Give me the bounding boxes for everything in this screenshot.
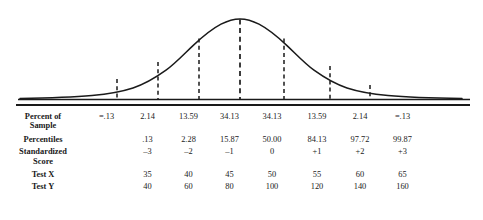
distribution-curve-svg [0, 0, 483, 106]
stats-table: Percent of Sample =.13 2.14 13.59 34.13 … [0, 108, 483, 192]
cell-percentile-pad-right [425, 135, 483, 144]
value-text: 50.00 [263, 135, 282, 144]
row-label-percentiles: Percentiles [0, 135, 86, 144]
table-row-percent-of-sample: Percent of Sample =.13 2.14 13.59 34.13 … [0, 112, 483, 131]
cell-zscore-plus3: +3 [380, 147, 425, 166]
value-text: 100 [266, 182, 279, 191]
cell-percent-band-7: 2.14 [340, 112, 380, 131]
table-row-standardized-score: Standardized Score –3 –2 –1 0 +1 +2 +3 [0, 147, 483, 166]
cell-percent-band-8: =.13 [380, 112, 425, 131]
cell-zscore-minus2: –2 [168, 147, 209, 166]
value-text: 60 [356, 170, 364, 179]
cell-percentile-minus3: .13 [127, 135, 168, 144]
row-label-test-y: Test Y [0, 182, 86, 191]
cell-testy-minus3: 40 [127, 182, 168, 191]
value-text: 0 [270, 147, 274, 156]
value-text: –1 [225, 147, 233, 156]
cell-testy-plus3: 160 [380, 182, 425, 191]
cell-percentile-minus1: 15.87 [209, 135, 250, 144]
row-label-standardized-score: Standardized Score [0, 147, 86, 166]
cell-percent-band-4: 34.13 [209, 112, 250, 131]
cell-testx-plus1: 55 [294, 170, 340, 179]
value-text: –2 [184, 147, 192, 156]
cell-testx-plus2: 60 [340, 170, 380, 179]
table-row-test-y: Test Y 40 60 80 100 120 140 160 [0, 182, 483, 191]
normal-curve-path [20, 19, 462, 99]
value-text: 120 [311, 182, 324, 191]
value-text: 55 [313, 170, 321, 179]
cell-percent-band-3: 13.59 [168, 112, 209, 131]
cell-zscore-zero: 0 [250, 147, 294, 166]
cell-testx-minus1: 45 [209, 170, 250, 179]
cell-testx-minus2: 40 [168, 170, 209, 179]
value-text: 2.28 [181, 135, 196, 144]
cell-zscore-plus1: +1 [294, 147, 340, 166]
cell-zscore-pad-right [425, 147, 483, 166]
table-row-percentiles: Percentiles .13 2.28 15.87 50.00 84.13 9… [0, 135, 483, 144]
value-text: 60 [184, 182, 192, 191]
cell-percentile-plus2: 97.72 [340, 135, 380, 144]
cell-percentile-plus1: 84.13 [294, 135, 340, 144]
value-text: 50 [268, 170, 276, 179]
cell-zscore-pad-left [86, 147, 127, 166]
cell-testx-pad-right [425, 170, 483, 179]
cell-testx-zero: 50 [250, 170, 294, 179]
row-label-line1: Test X [0, 170, 86, 179]
row-label-line1: Percentiles [0, 135, 86, 144]
cell-percent-band-2: 2.14 [127, 112, 168, 131]
row-label-line1: Test Y [0, 182, 86, 191]
value-text: .13 [142, 135, 152, 144]
cell-testy-plus2: 140 [340, 182, 380, 191]
value-text: 2.14 [140, 112, 155, 121]
value-text: 140 [354, 182, 367, 191]
value-text: 80 [225, 182, 233, 191]
value-text: 160 [396, 182, 409, 191]
cell-percentile-pad-left [86, 135, 127, 144]
cell-testx-pad-left [86, 170, 127, 179]
value-text: 99.87 [393, 135, 412, 144]
cell-percentile-zero: 50.00 [250, 135, 294, 144]
bell-curve-chart [0, 0, 483, 106]
cell-percentile-minus2: 2.28 [168, 135, 209, 144]
table-row-test-x: Test X 35 40 45 50 55 60 65 [0, 170, 483, 179]
row-label-test-x: Test X [0, 170, 86, 179]
value-text: 45 [225, 170, 233, 179]
value-text: 13.59 [308, 112, 327, 121]
value-text: 97.72 [351, 135, 370, 144]
value-text: 15.87 [220, 135, 239, 144]
value-text: 34.13 [263, 112, 282, 121]
value-text: +3 [398, 147, 407, 156]
value-text: 40 [184, 170, 192, 179]
cell-percentile-plus3: 99.87 [380, 135, 425, 144]
cell-zscore-minus1: –1 [209, 147, 250, 166]
cell-zscore-plus2: +2 [340, 147, 380, 166]
cell-testx-minus3: 35 [127, 170, 168, 179]
row-label-percent-of-sample: Percent of Sample [0, 112, 86, 131]
value-text: =.13 [395, 112, 410, 121]
value-text: 2.14 [353, 112, 368, 121]
row-label-line1: Standardized [0, 147, 86, 156]
value-text: 84.13 [308, 135, 327, 144]
cell-testy-zero: 100 [250, 182, 294, 191]
value-text: =.13 [99, 112, 114, 121]
cell-testy-minus2: 60 [168, 182, 209, 191]
table-top-rule [16, 104, 470, 106]
cell-percent-pad [425, 112, 483, 131]
value-text: 65 [398, 170, 406, 179]
cell-percent-band-1: =.13 [86, 112, 127, 131]
cell-percent-band-5: 34.13 [250, 112, 294, 131]
row-label-line1: Percent of [0, 112, 86, 121]
value-text: 40 [143, 182, 151, 191]
row-label-line2: Sample [0, 121, 86, 130]
cell-zscore-minus3: –3 [127, 147, 168, 166]
value-text: +2 [356, 147, 365, 156]
value-text: 13.59 [179, 112, 198, 121]
row-label-line2: Score [0, 157, 86, 166]
cell-percent-band-6: 13.59 [294, 112, 340, 131]
cell-testy-plus1: 120 [294, 182, 340, 191]
cell-testy-minus1: 80 [209, 182, 250, 191]
cell-testy-pad-right [425, 182, 483, 191]
value-text: –3 [143, 147, 151, 156]
value-text: +1 [313, 147, 322, 156]
normal-distribution-figure: Percent of Sample =.13 2.14 13.59 34.13 … [0, 0, 483, 220]
